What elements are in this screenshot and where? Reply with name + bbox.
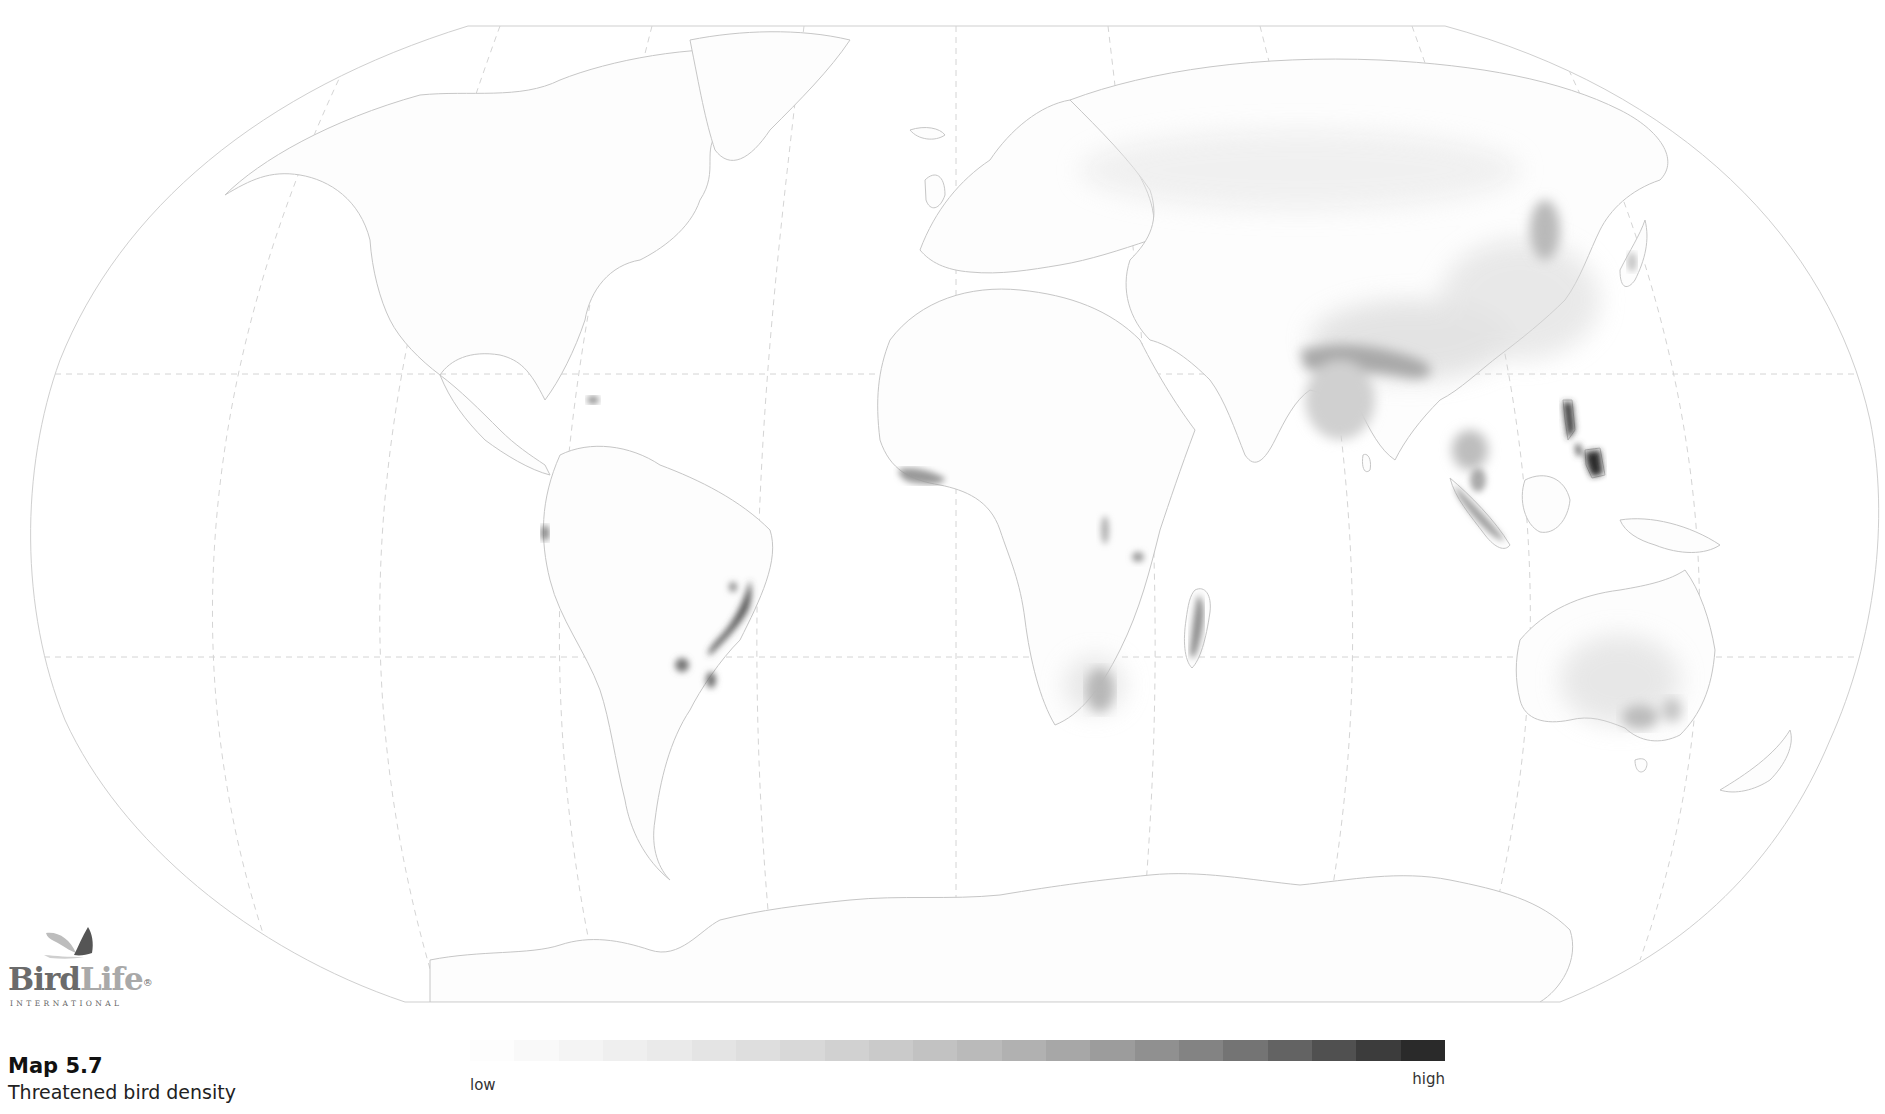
legend-step	[1002, 1040, 1046, 1061]
legend-step	[1090, 1040, 1134, 1061]
legend-step	[1223, 1040, 1267, 1061]
map-title: Threatened bird density	[8, 1079, 236, 1105]
legend-step	[1046, 1040, 1090, 1061]
logo-subtitle: INTERNATIONAL	[10, 999, 123, 1008]
legend-low-label: low	[470, 1076, 496, 1094]
legend-step	[647, 1040, 691, 1061]
legend-step	[559, 1040, 603, 1061]
sri-lanka	[1362, 454, 1370, 471]
legend-step	[1356, 1040, 1400, 1061]
legend-step	[1135, 1040, 1179, 1061]
legend-step	[1179, 1040, 1223, 1061]
legend-step	[957, 1040, 1001, 1061]
legend-step	[780, 1040, 824, 1061]
map-caption: Map 5.7 Threatened bird density	[8, 1053, 236, 1105]
legend-step	[1401, 1040, 1445, 1061]
legend-step	[692, 1040, 736, 1061]
logo-word-life: Life	[80, 961, 143, 997]
legend-step	[603, 1040, 647, 1061]
legend-step	[1268, 1040, 1312, 1061]
legend-step	[470, 1040, 514, 1061]
birdlife-logo: BirdLife® INTERNATIONAL	[8, 925, 148, 1015]
logo-wordmark: BirdLife®	[8, 963, 152, 995]
legend-gradient-bar	[470, 1040, 1445, 1061]
registered-mark: ®	[143, 977, 152, 988]
legend-step	[869, 1040, 913, 1061]
density-legend: low high	[470, 1040, 1445, 1061]
legend-high-label: high	[1412, 1070, 1445, 1088]
logo-word-bird: Bird	[8, 961, 80, 997]
legend-step	[1312, 1040, 1356, 1061]
legend-step	[825, 1040, 869, 1061]
legend-step	[913, 1040, 957, 1061]
map-number: Map 5.7	[8, 1053, 236, 1079]
legend-step	[514, 1040, 558, 1061]
legend-step	[736, 1040, 780, 1061]
world-map	[0, 0, 1885, 1010]
